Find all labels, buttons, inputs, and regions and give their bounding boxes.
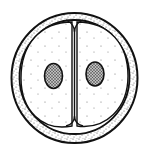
left-nucleus xyxy=(45,64,63,89)
right-nucleus xyxy=(86,62,104,86)
two-cell-embryo-diagram xyxy=(0,0,148,156)
